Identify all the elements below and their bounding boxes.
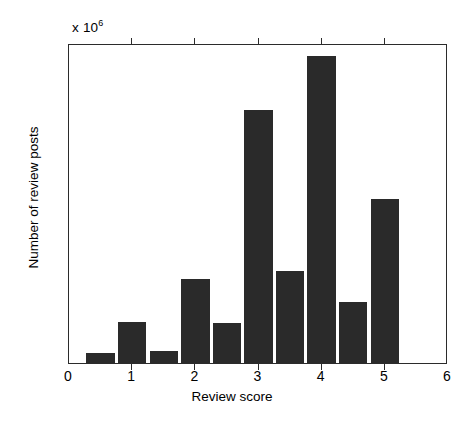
bar — [307, 56, 335, 363]
x-tick-mark — [384, 364, 385, 370]
plot-area — [68, 44, 447, 364]
bar — [181, 279, 209, 363]
x-tick-label: 2 — [174, 368, 214, 384]
figure: x 106 Number of review posts Review scor… — [0, 0, 464, 427]
x-tick-label: 1 — [111, 368, 151, 384]
bar — [276, 271, 304, 363]
x-tick-label: 3 — [238, 368, 278, 384]
y-axis-exponent-base: x 10 — [72, 20, 98, 35]
x-tick-label: 5 — [364, 368, 404, 384]
bar-series — [69, 45, 446, 363]
x-tick-label: 0 — [48, 368, 88, 384]
x-axis-title: Review score — [0, 389, 464, 404]
x-tick-label: 4 — [301, 368, 341, 384]
bar — [118, 322, 146, 363]
bar — [339, 302, 367, 363]
x-tick-mark — [131, 364, 132, 370]
x-tick-mark — [321, 364, 322, 370]
x-tick-label: 6 — [427, 368, 464, 384]
bar — [86, 353, 114, 363]
bar — [150, 351, 178, 363]
bar — [244, 110, 272, 363]
y-axis-title: Number of review posts — [26, 83, 41, 313]
y-axis-exponent-power: 6 — [98, 18, 103, 28]
y-axis-exponent-label: x 106 — [72, 18, 104, 35]
x-tick-mark — [194, 364, 195, 370]
bar — [371, 199, 399, 363]
x-tick-mark — [258, 364, 259, 370]
bar — [213, 323, 241, 363]
